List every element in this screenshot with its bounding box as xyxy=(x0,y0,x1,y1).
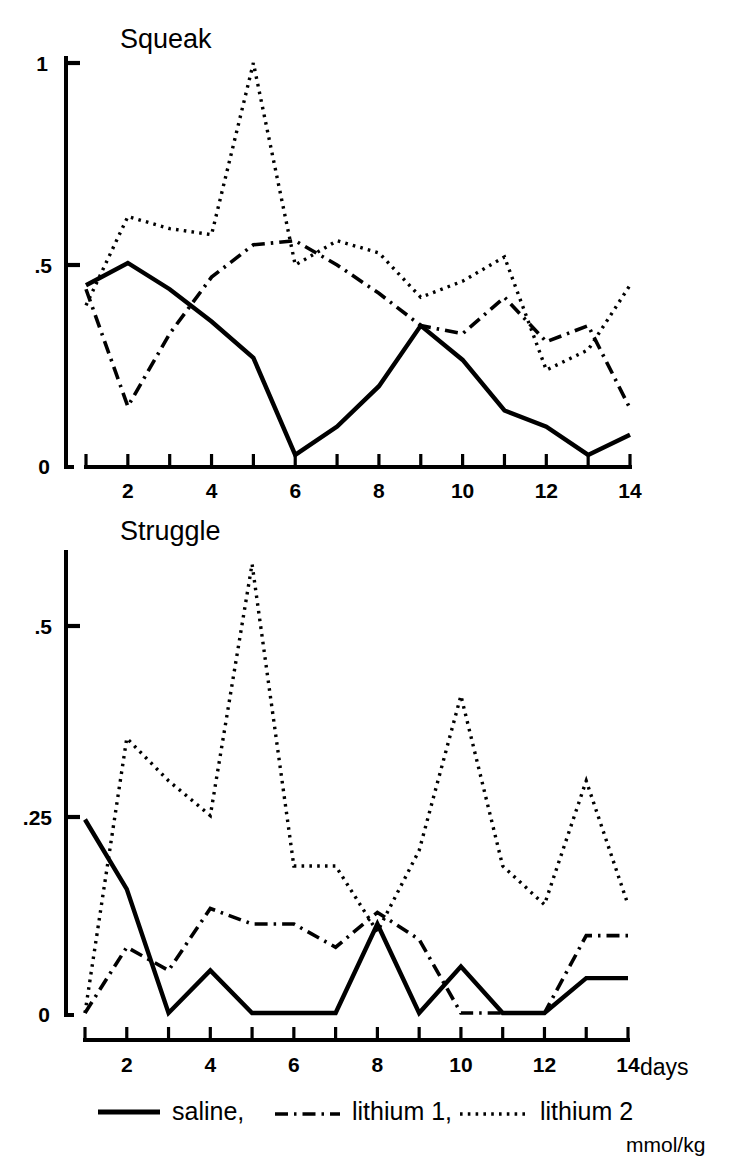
panel-squeak: Squeak 1 .5 0 2468101214 xyxy=(34,24,642,502)
x-ticklabel: 10 xyxy=(451,479,474,502)
y-ticks-struggle xyxy=(66,626,80,817)
series-line-saline xyxy=(85,820,628,1014)
y-ticklabel: 1 xyxy=(36,52,48,75)
y-axis-struggle xyxy=(66,552,72,1015)
series-line-lithium-2 xyxy=(85,564,628,1013)
units-label: mmol/kg xyxy=(626,1133,705,1156)
x-ticklabel: 6 xyxy=(288,1053,300,1076)
x-ticklabel: 14 xyxy=(618,479,642,502)
panel-struggle: Struggle .5 .25 0 2468101214 days xyxy=(23,516,689,1080)
x-ticklabel: 6 xyxy=(289,479,301,502)
series-line-lithium-2 xyxy=(86,63,630,370)
legend: saline, lithium 1, lithium 2 mmol/kg xyxy=(98,1097,705,1156)
series-line-saline xyxy=(86,263,630,455)
y-axis-squeak xyxy=(66,58,72,467)
x-ticklabel: 12 xyxy=(535,479,558,502)
x-ticklabel: 4 xyxy=(206,479,218,502)
y-ticklabel: 0 xyxy=(38,455,50,478)
y-ticklabels-squeak: 1 .5 0 xyxy=(34,52,52,478)
panel-title-struggle: Struggle xyxy=(120,516,221,546)
series-line-lithium-1 xyxy=(86,241,630,409)
y-ticklabel: .5 xyxy=(34,615,52,638)
x-ticklabels-struggle: 2468101214 xyxy=(121,1053,640,1076)
figure-root: Squeak 1 .5 0 2468101214 Struggle xyxy=(0,0,745,1166)
legend-label-lithium-1: lithium 1, xyxy=(352,1097,452,1125)
y-ticklabel: .5 xyxy=(34,254,52,277)
x-ticklabel: 2 xyxy=(122,479,134,502)
x-ticklabel: 2 xyxy=(121,1053,133,1076)
x-ticklabel: 10 xyxy=(449,1053,472,1076)
x-ticklabel: 14 xyxy=(616,1053,640,1076)
x-axis-title: days xyxy=(640,1054,689,1080)
legend-label-lithium-2: lithium 2 xyxy=(540,1097,633,1125)
legend-label-saline: saline, xyxy=(172,1097,244,1125)
panel-title-squeak: Squeak xyxy=(120,24,212,54)
series-line-lithium-1 xyxy=(85,909,628,1013)
x-ticklabel: 12 xyxy=(533,1053,556,1076)
x-ticklabel: 8 xyxy=(373,479,385,502)
x-ticklabel: 8 xyxy=(372,1053,384,1076)
chart-canvas: Squeak 1 .5 0 2468101214 Struggle xyxy=(0,0,745,1166)
y-ticklabel: .25 xyxy=(23,806,53,829)
x-ticklabel: 4 xyxy=(204,1053,216,1076)
x-ticklabels-squeak: 2468101214 xyxy=(122,479,642,502)
y-ticklabel: 0 xyxy=(38,1003,50,1026)
y-ticklabels-struggle: .5 .25 0 xyxy=(23,615,53,1026)
y-ticks-squeak xyxy=(66,63,80,265)
